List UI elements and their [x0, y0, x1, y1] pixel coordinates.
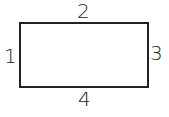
top-side-label: 2	[77, 1, 90, 21]
left-side-label: 1	[4, 46, 17, 66]
bottom-side-label: 4	[78, 89, 91, 109]
right-side-label: 3	[150, 43, 163, 63]
rectangle-shape	[19, 22, 149, 88]
